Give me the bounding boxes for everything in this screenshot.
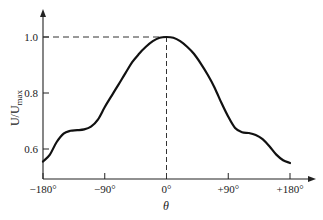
x-axis-label: θ [163, 199, 169, 213]
y-axis-label: U/Umax [8, 89, 24, 126]
x-tick-label: −90° [94, 183, 116, 195]
ticks: −180°−90°0°+90°+180°0.60.81.0 [24, 31, 303, 195]
axes [40, 9, 316, 182]
y-tick-label: 1.0 [24, 31, 38, 43]
x-tick-label: +180° [276, 183, 303, 195]
x-tick-label: +90° [217, 183, 239, 195]
x-tick-label: −180° [29, 183, 56, 195]
x-axis-arrow-icon [308, 176, 316, 182]
y-tick-label: 0.8 [24, 87, 38, 99]
x-tick-label: 0° [162, 183, 172, 195]
line-chart: −180°−90°0°+90°+180°0.60.81.0 θ U/Umax [0, 0, 323, 220]
y-axis-arrow-icon [40, 9, 46, 17]
y-tick-label: 0.6 [24, 143, 38, 155]
